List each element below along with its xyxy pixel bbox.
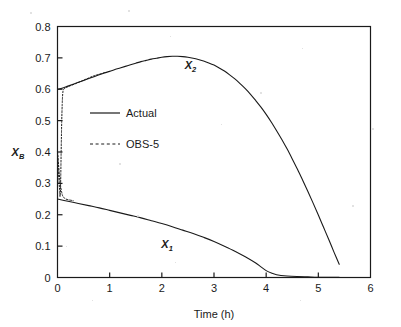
x-axis-tick-label: 4 (263, 282, 269, 294)
series-curve (58, 199, 340, 277)
x-axis-title: Time (h) (194, 308, 235, 320)
y-axis-tick-label: 0.3 (35, 177, 50, 189)
series-curve (58, 56, 340, 264)
y-axis-tick-label: 0.4 (35, 146, 50, 158)
y-axis-tick-label: 0.5 (35, 115, 50, 127)
x-axis-tick-label: 1 (107, 282, 113, 294)
x-axis-tick-label: 5 (315, 282, 321, 294)
curve-annotation: X1 (160, 238, 173, 253)
series-curve (58, 73, 105, 197)
line-chart: 012345600.10.20.30.40.50.60.70.8X2X1Actu… (0, 0, 401, 327)
legend-label: Actual (126, 107, 157, 119)
chart-figure: 012345600.10.20.30.40.50.60.70.8X2X1Actu… (0, 0, 401, 327)
y-axis-tick-label: 0 (44, 272, 50, 284)
y-axis-tick-label: 0.6 (35, 83, 50, 95)
y-axis-tick-label: 0.7 (35, 52, 50, 64)
y-axis-title: XB (11, 146, 25, 161)
x-axis-tick-label: 2 (159, 282, 165, 294)
y-axis-tick-label: 0.8 (35, 21, 50, 33)
curve-annotation: X2 (184, 59, 197, 74)
y-axis-tick-label: 0.2 (35, 209, 50, 221)
x-axis-tick-label: 3 (211, 282, 217, 294)
plot-frame (58, 27, 371, 278)
x-axis-tick-label: 0 (54, 282, 60, 294)
x-axis-tick-label: 6 (367, 282, 373, 294)
y-axis-tick-label: 0.1 (35, 240, 50, 252)
legend-label: OBS-5 (126, 138, 159, 150)
